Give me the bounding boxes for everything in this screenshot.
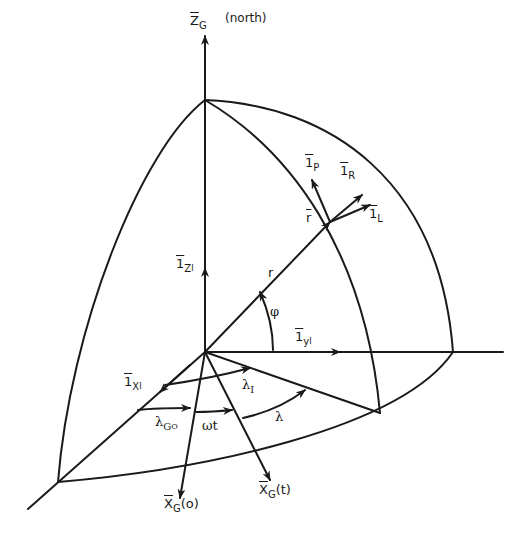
label-sub: G	[268, 489, 276, 500]
label-sub: R	[348, 170, 355, 181]
label-unit-r: 1R	[340, 164, 355, 181]
label-unit-z-i: 1ZI	[176, 257, 194, 274]
meridian-r	[205, 100, 380, 413]
x-inertial-arrow	[160, 365, 190, 392]
label-unit-y-i: 1yI	[295, 330, 312, 347]
unit-r-vector	[330, 195, 362, 222]
label-subsub: I	[309, 337, 311, 346]
phi-arc	[260, 292, 273, 350]
label-omega-t: ωt	[202, 419, 218, 432]
label-lambda-g-o: λGO	[155, 415, 178, 432]
label-main: X	[164, 496, 173, 511]
label-lambda-i: λI	[242, 378, 254, 395]
label-sub: L	[377, 213, 383, 224]
label-north: (north)	[225, 12, 267, 24]
label-z-g: ZG	[190, 14, 207, 31]
label-unit-p: 1P	[305, 156, 319, 173]
label-main: λ	[155, 414, 163, 429]
label-main: Z	[190, 13, 199, 28]
label-unit-l: 1L	[369, 207, 383, 224]
label-main: r	[306, 210, 311, 225]
label-subsub: I	[191, 264, 193, 273]
label-x-g-t: XG(t)	[259, 483, 291, 500]
label-main: X	[259, 482, 268, 497]
equator-arc	[58, 352, 453, 482]
label-unit-x-i: 1XI	[124, 375, 142, 392]
label-main: λ	[242, 377, 250, 392]
unit-p-vector	[312, 180, 330, 222]
label-r: r	[268, 266, 273, 279]
label-sub: I	[250, 384, 254, 395]
label-sub: G	[199, 20, 207, 31]
label-x-g-0: XG(o)	[164, 497, 199, 514]
meridian-left	[58, 100, 205, 482]
diagram-canvas	[0, 0, 531, 539]
label-tail: (t)	[276, 482, 291, 497]
label-subsub: O	[171, 422, 178, 431]
label-sub: G	[173, 503, 181, 514]
label-sub: P	[313, 162, 319, 173]
omega-t-arc	[196, 410, 232, 412]
lambda-go-arc	[138, 408, 190, 410]
label-subsub: I	[139, 382, 141, 391]
label-phi: φ	[270, 305, 279, 318]
unit-l-vector	[330, 205, 370, 222]
label-r-vector: r	[306, 211, 311, 224]
label-lambda: λ	[275, 410, 283, 423]
label-tail: (o)	[181, 496, 199, 511]
